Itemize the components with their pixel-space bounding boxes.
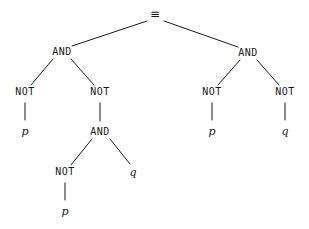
tree-node-p-l1: p [21, 126, 28, 137]
tree-node-q-r2: q [281, 126, 288, 137]
tree-node-p-deep: p [61, 206, 68, 217]
tree-node-and-l: AND [52, 47, 71, 57]
tree-node-and-r: AND [238, 48, 257, 58]
tree-edge-and-r-to-not-r2 [257, 60, 279, 85]
tree-edge-and-l-to-not-l2 [71, 59, 94, 85]
tree-edge-and-l-to-not-l1 [31, 59, 53, 85]
tree-edge-and-r-to-not-r1 [218, 60, 240, 85]
tree-edges-layer [0, 0, 309, 229]
tree-node-root: ≡ [150, 8, 160, 20]
tree-node-not-r2: NOT [275, 87, 294, 97]
tree-node-not-l1: NOT [15, 87, 34, 97]
tree-node-not-l2: NOT [90, 87, 109, 97]
tree-node-not-deep: NOT [55, 167, 74, 177]
parse-tree-diagram: ≡ANDANDNOTNOTNOTNOTpANDpqNOTqp [0, 0, 309, 229]
tree-edge-and-mid-to-not-deep [71, 139, 92, 165]
tree-node-not-r1: NOT [202, 87, 221, 97]
tree-node-and-mid: AND [90, 127, 109, 137]
tree-edge-and-mid-to-q-mid [110, 139, 130, 164]
tree-node-p-r1: p [208, 126, 215, 137]
tree-edge-root-to-and-r [164, 21, 238, 47]
tree-node-q-mid: q [129, 167, 136, 178]
tree-edge-root-to-and-l [72, 21, 147, 46]
